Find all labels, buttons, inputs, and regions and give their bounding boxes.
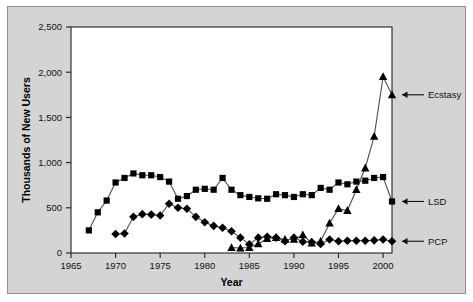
y-axis-tick-label: 2,500	[38, 21, 62, 32]
x-axis-tick-label: 1990	[283, 260, 304, 271]
marker-lsd	[104, 197, 110, 203]
marker-lsd	[344, 181, 350, 187]
marker-lsd	[148, 172, 154, 178]
x-axis-tick-label: 1975	[150, 260, 171, 271]
marker-lsd	[309, 192, 315, 198]
x-axis-tick-label: 1980	[194, 260, 215, 271]
marker-lsd	[130, 170, 136, 176]
x-axis-tick-label: 1965	[60, 260, 81, 271]
marker-lsd	[202, 186, 208, 192]
chart-panel: 05001,0001,5002,0002,5001965197019751980…	[7, 6, 466, 294]
x-axis-tick-label: 1995	[328, 260, 349, 271]
marker-lsd	[184, 193, 190, 199]
chart-figure: 05001,0001,5002,0002,5001965197019751980…	[0, 0, 473, 302]
x-axis-tick-label: 2000	[373, 260, 394, 271]
x-axis-tick-label: 1970	[105, 260, 126, 271]
marker-lsd	[282, 192, 288, 198]
annotation-arrow-head	[402, 198, 408, 204]
marker-lsd	[273, 191, 279, 197]
y-axis-tick-label: 0	[57, 247, 62, 258]
marker-lsd	[112, 179, 118, 185]
annotation-arrow-head	[402, 92, 408, 98]
marker-lsd	[166, 178, 172, 184]
y-axis-tick-label: 1,000	[38, 157, 62, 168]
marker-lsd	[335, 179, 341, 185]
marker-lsd	[353, 178, 359, 184]
y-axis-tick-label: 1,500	[38, 112, 62, 123]
pcp-label: PCP	[428, 236, 448, 247]
marker-lsd	[211, 187, 217, 193]
marker-lsd	[291, 194, 297, 200]
x-axis-tick-label: 1985	[239, 260, 260, 271]
marker-lsd	[121, 175, 127, 181]
y-axis-tick-label: 2,000	[38, 67, 62, 78]
marker-lsd	[237, 192, 243, 198]
lsd-label: LSD	[428, 196, 447, 207]
marker-lsd	[139, 172, 145, 178]
marker-lsd	[362, 178, 368, 184]
marker-lsd	[228, 187, 234, 193]
annotation-arrow-head	[402, 238, 408, 244]
marker-lsd	[219, 175, 225, 181]
marker-lsd	[157, 174, 163, 180]
marker-lsd	[193, 187, 199, 193]
ecstasy-label: Ecstasy	[428, 89, 462, 100]
marker-lsd	[246, 194, 252, 200]
drug-use-line-chart: 05001,0001,5002,0002,5001965197019751980…	[8, 7, 465, 293]
marker-lsd	[300, 191, 306, 197]
y-axis-tick-label: 500	[46, 202, 62, 213]
marker-lsd	[264, 196, 270, 202]
y-axis-title: Thousands of New Users	[20, 77, 32, 203]
marker-lsd	[255, 195, 261, 201]
x-axis-title: Year	[220, 276, 242, 288]
marker-lsd	[389, 198, 395, 204]
marker-lsd	[95, 209, 101, 215]
marker-lsd	[371, 175, 377, 181]
marker-lsd	[86, 227, 92, 233]
marker-lsd	[318, 185, 324, 191]
marker-lsd	[326, 187, 332, 193]
plot-area-background	[71, 27, 392, 253]
marker-lsd	[175, 196, 181, 202]
marker-lsd	[380, 174, 386, 180]
